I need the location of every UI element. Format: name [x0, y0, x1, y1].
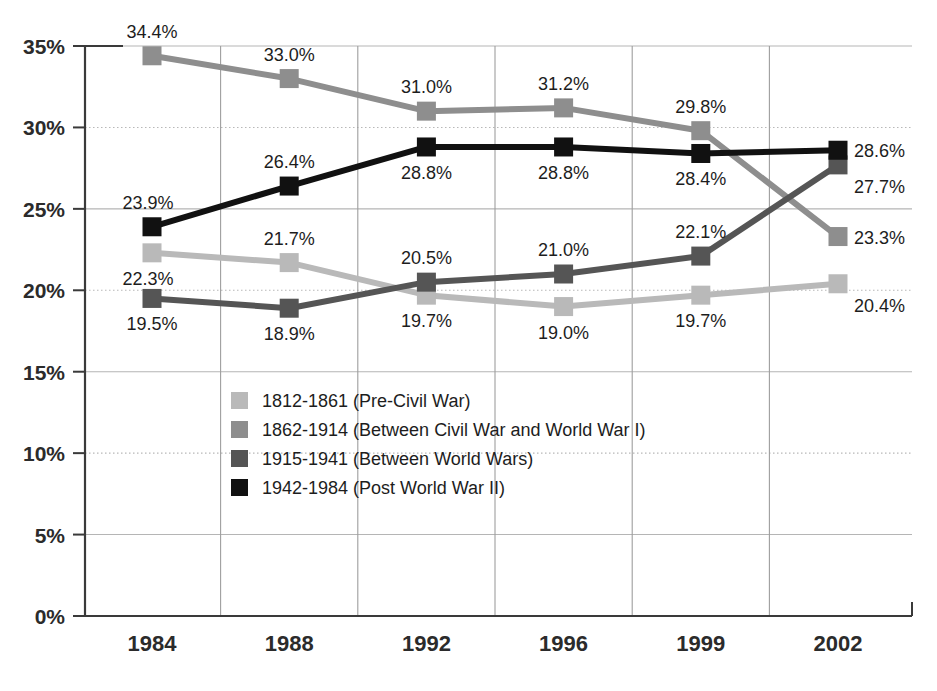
data-value-label: 22.3% [122, 269, 173, 289]
data-point-marker[interactable] [417, 102, 436, 121]
chart-axes [85, 46, 912, 616]
data-value-label: 33.0% [264, 45, 315, 65]
x-axis-label-1992: 1992 [402, 631, 451, 656]
data-value-label: 20.5% [401, 248, 452, 268]
data-value-label: 19.0% [538, 323, 589, 343]
data-point-marker[interactable] [280, 253, 299, 272]
y-axis-label-35: 35% [23, 35, 65, 58]
legend-label-2: 1915-1941 (Between World Wars) [262, 449, 533, 469]
chart-container: 0%5%10%15%20%25%30%35% 19841988199219961… [0, 0, 937, 691]
data-point-marker[interactable] [691, 121, 710, 140]
data-point-marker[interactable] [417, 273, 436, 292]
line-chart-plot: 0%5%10%15%20%25%30%35% 19841988199219961… [0, 0, 937, 691]
legend-label-3: 1942-1984 (Post World War II) [262, 478, 505, 498]
data-point-marker[interactable] [554, 297, 573, 316]
x-axis-label-1999: 1999 [676, 631, 725, 656]
x-axis-label-1984: 1984 [128, 631, 178, 656]
x-axis-label-1996: 1996 [539, 631, 588, 656]
data-point-marker[interactable] [554, 265, 573, 284]
data-point-marker[interactable] [280, 177, 299, 196]
data-value-label: 28.6% [854, 141, 905, 161]
legend-swatch-2[interactable] [231, 450, 248, 467]
legend-label-1: 1862-1914 (Between Civil War and World W… [262, 420, 645, 440]
data-value-label: 28.4% [675, 169, 726, 189]
data-value-label: 26.4% [264, 152, 315, 172]
y-axis-label-0: 0% [35, 605, 66, 628]
horizontal-gridlines [73, 46, 912, 616]
y-axis-label-10: 10% [23, 442, 65, 465]
y-axis-label-5: 5% [35, 524, 66, 547]
data-point-marker[interactable] [829, 274, 848, 293]
y-axis-label-30: 30% [23, 116, 65, 139]
data-point-marker[interactable] [280, 69, 299, 88]
data-value-label: 19.7% [675, 311, 726, 331]
data-point-marker[interactable] [829, 227, 848, 246]
data-point-marker[interactable] [554, 137, 573, 156]
data-value-label: 19.7% [401, 311, 452, 331]
data-value-label: 20.4% [854, 296, 905, 316]
data-value-label: 23.9% [122, 193, 173, 213]
data-value-label: 29.8% [675, 97, 726, 117]
y-axis-label-25: 25% [23, 198, 65, 221]
data-value-label: 23.3% [854, 228, 905, 248]
data-point-marker[interactable] [417, 137, 436, 156]
data-point-marker[interactable] [143, 243, 162, 262]
legend-swatch-0[interactable] [231, 392, 248, 409]
data-value-label: 21.7% [264, 229, 315, 249]
data-point-marker[interactable] [143, 289, 162, 308]
y-axis-label-20: 20% [23, 279, 65, 302]
data-value-label: 28.8% [401, 163, 452, 183]
data-point-marker[interactable] [691, 247, 710, 266]
x-axis-tick-labels: 198419881992199619992002 [128, 631, 863, 656]
data-value-label: 31.2% [538, 74, 589, 94]
data-value-label: 18.9% [264, 324, 315, 344]
chart-legend: 1812-1861 (Pre-Civil War)1862-1914 (Betw… [231, 391, 645, 498]
data-value-label: 28.8% [538, 163, 589, 183]
legend-swatch-3[interactable] [231, 479, 248, 496]
data-value-label: 22.1% [675, 222, 726, 242]
legend-swatch-1[interactable] [231, 421, 248, 438]
data-point-marker[interactable] [554, 98, 573, 117]
data-value-label: 21.0% [538, 240, 589, 260]
data-point-marker[interactable] [143, 217, 162, 236]
y-axis-tick-labels: 0%5%10%15%20%25%30%35% [23, 35, 65, 628]
data-point-marker[interactable] [829, 141, 848, 160]
data-point-marker[interactable] [691, 286, 710, 305]
x-axis-label-2002: 2002 [814, 631, 863, 656]
y-axis-label-15: 15% [23, 361, 65, 384]
data-value-label: 34.4% [126, 22, 177, 42]
data-point-marker[interactable] [691, 144, 710, 163]
data-value-label: 31.0% [401, 77, 452, 97]
data-value-label: 19.5% [126, 314, 177, 334]
data-value-label: 27.7% [854, 177, 905, 197]
data-point-marker[interactable] [280, 299, 299, 318]
data-point-marker[interactable] [143, 46, 162, 65]
legend-label-0: 1812-1861 (Pre-Civil War) [262, 391, 470, 411]
x-axis-label-1988: 1988 [265, 631, 314, 656]
